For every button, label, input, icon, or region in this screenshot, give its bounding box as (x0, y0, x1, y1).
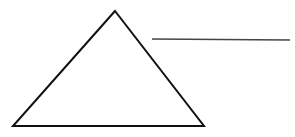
triangle-shape (13, 11, 204, 126)
horizontal-line (152, 39, 290, 40)
diagram-canvas (0, 0, 295, 137)
